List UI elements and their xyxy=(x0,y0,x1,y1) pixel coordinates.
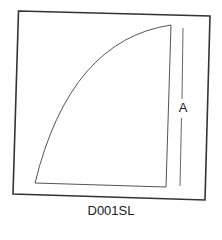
diagram-caption: D001SL xyxy=(0,203,222,218)
dimension-line-a-upper xyxy=(182,28,183,99)
curved-wedge-shape xyxy=(35,25,171,187)
dimension-label-a: A xyxy=(176,100,190,116)
dimension-line-a-lower xyxy=(180,118,182,186)
